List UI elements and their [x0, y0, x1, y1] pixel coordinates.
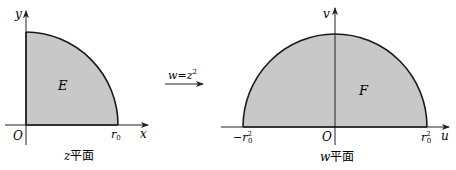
origin-label: O: [322, 130, 332, 144]
w-plane: v u O F −r20 r20 w平面: [221, 7, 449, 164]
conformal-map-diagram: y x O E r0 z平面 w=z2 v u O F −r20 r20: [0, 0, 456, 170]
x-axis-label: x: [140, 127, 147, 141]
neg-radius-squared-label: −r20: [233, 130, 252, 145]
radius-label: r0: [111, 128, 121, 142]
u-axis-label: u: [441, 129, 449, 143]
v-axis-label: v: [323, 7, 330, 21]
origin-label: O: [13, 129, 23, 143]
region-label-F: F: [358, 83, 369, 98]
mapping-label: w=z2: [168, 68, 197, 82]
y-axis-label: y: [14, 7, 22, 21]
z-plane-caption: z平面: [63, 149, 94, 163]
quarter-disk-region-E: [26, 32, 118, 125]
radius-squared-label: r20: [421, 130, 431, 145]
mapping-arrow: w=z2: [165, 68, 203, 84]
z-plane: y x O E r0 z平面: [5, 7, 148, 163]
w-plane-caption: w平面: [320, 150, 354, 164]
region-label-E: E: [57, 78, 68, 93]
